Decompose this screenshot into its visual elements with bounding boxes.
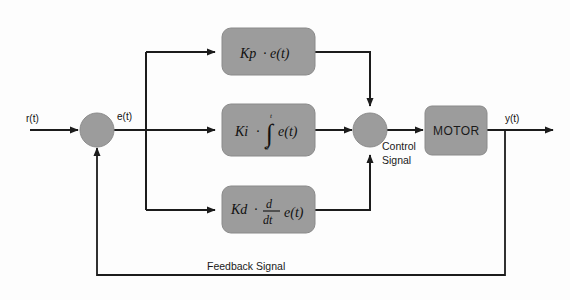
integral-gain-label: Ki: [234, 124, 248, 139]
proportional-gain-label: Kp: [239, 46, 256, 61]
control-signal-label-line2: Signal: [382, 154, 411, 166]
control-signal-label-line1: Control: [382, 140, 416, 152]
error-summing-junction[interactable]: [80, 113, 114, 147]
motor-block-label: MOTOR: [433, 124, 479, 138]
derivative-numerator: d: [266, 197, 273, 211]
derivative-dot: ·: [254, 202, 258, 217]
diagram-canvas: Kp · e(t) Ki · ∫ t 0 e(t) Kd · d dt e(t)…: [0, 0, 570, 300]
output-signal-label: y(t): [505, 113, 519, 124]
proportional-dot: ·: [263, 46, 267, 61]
wire-proportional-to-control-sum: [315, 52, 370, 106]
derivative-denominator: dt: [263, 213, 273, 227]
integral-lower-limit: 0: [265, 144, 269, 152]
feedback-signal-label: Feedback Signal: [207, 260, 285, 272]
pid-block-diagram: Kp · e(t) Ki · ∫ t 0 e(t) Kd · d dt e(t)…: [0, 0, 570, 300]
integral-term-label: e(t): [278, 124, 298, 140]
proportional-block[interactable]: [222, 28, 315, 75]
derivative-gain-label: Kd: [230, 202, 248, 217]
error-signal-label: e(t): [117, 111, 132, 122]
proportional-term-label: e(t): [270, 46, 290, 62]
wire-derivative-to-control-sum: [315, 155, 370, 210]
input-signal-label: r(t): [26, 113, 39, 124]
derivative-term-label: e(t): [284, 205, 304, 221]
integral-dot: ·: [256, 124, 260, 139]
